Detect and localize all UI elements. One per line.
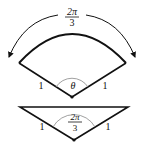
sector-figure: 2π 3 θ 1 1	[9, 6, 135, 99]
sector-angle-label: θ	[71, 80, 76, 91]
sector-vertex-dot	[70, 95, 73, 98]
diagram: 2π 3 θ 1 1 2π 3 1 1	[0, 0, 142, 144]
triangle-left-side-label: 1	[40, 121, 45, 132]
sector-right-side-label: 1	[103, 80, 108, 91]
triangle-figure: 2π 3 1 1	[20, 107, 128, 142]
triangle-right-side-label: 1	[106, 121, 111, 132]
sector-left-side-label: 1	[39, 80, 44, 91]
triangle-vertex-dot	[72, 138, 75, 141]
arc-length-arrow	[9, 15, 58, 57]
arc-label-denominator: 3	[70, 17, 75, 28]
triangle-angle-denominator: 3	[73, 123, 78, 133]
arc-length-arrow-right	[86, 15, 135, 57]
arc-label-numerator: 2π	[67, 6, 78, 17]
sector-arc	[19, 34, 126, 63]
triangle-angle-numerator: 2π	[70, 112, 80, 122]
